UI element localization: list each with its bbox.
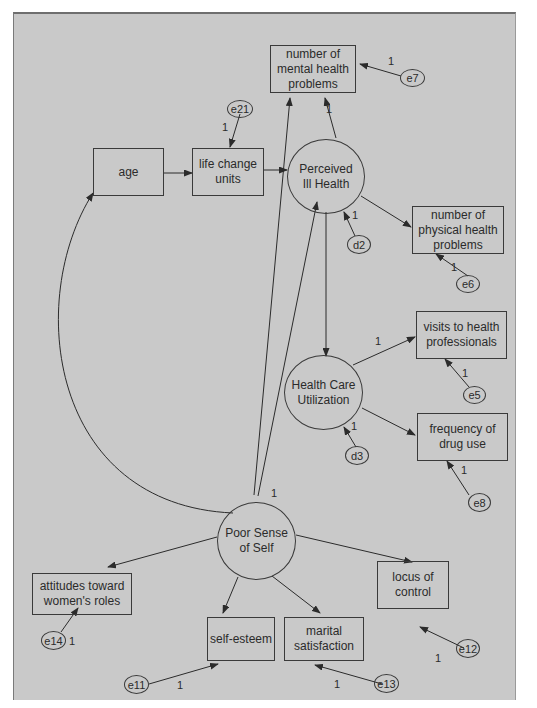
error-label: e7: [406, 72, 418, 84]
weight-e5: 1: [462, 368, 468, 379]
label-line: physical health: [418, 223, 497, 237]
error-term-e21[interactable]: e21: [227, 100, 253, 118]
label-line: number of: [286, 47, 340, 61]
label-line: drug use: [439, 437, 486, 451]
label-line: units: [215, 172, 240, 186]
error-term-e13[interactable]: e13: [374, 674, 399, 693]
error-label: e8: [473, 497, 485, 509]
observed-number-of-physical-health-problems[interactable]: number ofphysical healthproblems: [412, 206, 504, 254]
label-line: satisfaction: [294, 639, 354, 653]
label-line: Ill Health: [303, 177, 350, 191]
error-label: d3: [351, 450, 363, 462]
label-line: visits to health: [423, 320, 499, 334]
error-label: e11: [128, 679, 146, 691]
observed-self-esteem[interactable]: self-esteem: [207, 617, 275, 661]
error-label: e6: [462, 278, 474, 290]
label-line: Health Care: [291, 378, 355, 392]
label-line: number of: [431, 208, 485, 222]
weight-e11: 1: [177, 680, 183, 691]
error-term-e5[interactable]: e5: [463, 386, 486, 404]
label-line: locus of: [392, 570, 433, 584]
label-line: women's roles: [44, 594, 120, 608]
weight-pih-mental: 1: [326, 104, 332, 115]
error-label: e21: [231, 103, 249, 115]
label-line: mental health: [277, 62, 349, 76]
error-term-d3[interactable]: d3: [345, 446, 369, 465]
label-line: frequency of: [429, 422, 495, 436]
label-line: problems: [433, 238, 482, 252]
weight-e13: 1: [334, 679, 340, 690]
error-label: e12: [459, 643, 477, 655]
weight-pss: 1: [271, 488, 277, 499]
observed-locus-of-control[interactable]: locus ofcontrol: [377, 561, 449, 609]
label-line: attitudes toward: [40, 579, 125, 593]
error-term-e8[interactable]: e8: [468, 493, 491, 512]
observed-age[interactable]: age: [93, 148, 164, 196]
weight-e21: 1: [222, 122, 228, 133]
label-line: Poor Sense: [225, 526, 288, 540]
weight-e6: 1: [451, 262, 457, 273]
observed-attitudes-toward-womens-roles[interactable]: attitudes towardwomen's roles: [32, 573, 132, 615]
observed-visits-to-health-professionals[interactable]: visits to healthprofessionals: [416, 311, 507, 359]
latent-health-care-utilization[interactable]: Health CareUtilization: [284, 355, 363, 430]
latent-poor-sense-of-self[interactable]: Poor Senseof Self: [217, 502, 296, 580]
weight-hcu-visits: 1: [375, 336, 381, 347]
label-line: self-esteem: [210, 632, 272, 647]
error-label: e5: [468, 389, 480, 401]
observed-life-change-units[interactable]: life changeunits: [192, 148, 264, 196]
label-line: problems: [288, 77, 337, 91]
label-line: professionals: [426, 335, 497, 349]
label-line: Utilization: [297, 393, 349, 407]
label-line: of Self: [239, 541, 273, 555]
observed-frequency-of-drug-use[interactable]: frequency ofdrug use: [417, 413, 508, 461]
latent-perceived-ill-health[interactable]: PerceivedIll Health: [287, 139, 365, 214]
error-term-e7[interactable]: e7: [400, 69, 425, 87]
label-line: control: [395, 585, 431, 599]
error-label: d2: [353, 239, 365, 251]
label-line: age: [118, 165, 138, 180]
error-label: e13: [377, 678, 395, 690]
error-term-e12[interactable]: e12: [456, 639, 480, 658]
error-term-e14[interactable]: e14: [41, 631, 66, 650]
error-term-d2[interactable]: d2: [347, 235, 371, 254]
weight-e14: 1: [69, 636, 75, 647]
label-line: marital: [306, 624, 342, 638]
error-term-e6[interactable]: e6: [456, 275, 480, 293]
observed-number-of-mental-health-problems[interactable]: number ofmental healthproblems: [270, 45, 356, 93]
weight-e7: 1: [388, 56, 394, 67]
label-line: Perceived: [299, 162, 352, 176]
observed-marital-satisfaction[interactable]: maritalsatisfaction: [284, 617, 364, 661]
label-line: life change: [199, 157, 257, 171]
weight-e8: 1: [461, 465, 467, 476]
error-label: e14: [44, 635, 62, 647]
weight-d3: 1: [351, 421, 357, 432]
weight-d2: 1: [352, 210, 358, 221]
error-term-e11[interactable]: e11: [124, 675, 149, 694]
weight-e12: 1: [435, 653, 441, 664]
